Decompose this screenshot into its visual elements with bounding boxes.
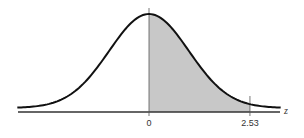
tick-label-upper: 2.53 [241, 118, 259, 128]
tick-label-zero: 0 [146, 118, 151, 128]
axis-variable-label: z [283, 105, 288, 116]
normal-curve-chart: 0 2.53 z [0, 0, 304, 138]
shaded-area [149, 14, 250, 112]
